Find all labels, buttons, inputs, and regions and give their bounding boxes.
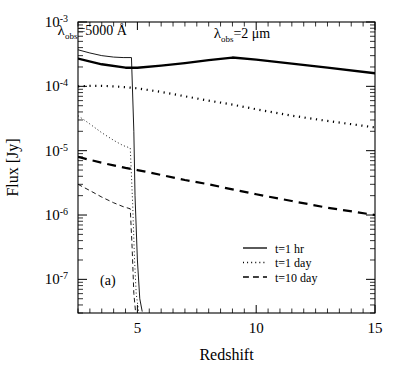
x-axis-title: Redshift (199, 346, 254, 363)
x-tick-label: 10 (249, 320, 264, 336)
x-tick-label: 5 (134, 320, 142, 336)
x-tick-label: 15 (368, 320, 383, 336)
y-tick-label: 10-7 (45, 270, 68, 287)
series-5000a-t-1-hr (78, 50, 142, 311)
legend-label: t=10 day (275, 271, 317, 285)
y-tick-label: 10-6 (45, 206, 68, 223)
legend-label: t=1 day (275, 256, 311, 270)
y-axis-title: Flux [Jy] (4, 138, 22, 196)
panel-label: (a) (100, 273, 116, 289)
series-2um-t-1-day (78, 86, 375, 128)
lambda-5000-label: λobs=5000 Å (58, 22, 128, 41)
flux-redshift-chart: 5101510-310-410-510-610-7RedshiftFlux [J… (0, 0, 395, 366)
lambda-2um-label: λobs=2 μm (214, 25, 271, 44)
legend-label: t=1 hr (275, 242, 304, 256)
series-5000a-t-10-day (78, 184, 136, 311)
figure-container: 5101510-310-410-510-610-7RedshiftFlux [J… (0, 0, 395, 366)
curves-layer (78, 50, 375, 311)
series-2um-t-1-hr (78, 58, 375, 74)
y-tick-label: 10-5 (45, 142, 68, 159)
labels-layer: 5101510-310-410-510-610-7RedshiftFlux [J… (4, 13, 383, 363)
y-tick-label: 10-4 (45, 77, 68, 94)
